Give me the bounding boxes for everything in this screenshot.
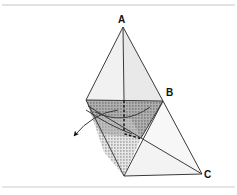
vertex-label-a: A xyxy=(118,15,125,25)
vertex-label-c: C xyxy=(204,170,211,180)
vertex-label-b: B xyxy=(166,88,173,98)
geometry-figure: A B C xyxy=(0,0,237,195)
figure-canvas xyxy=(0,0,237,195)
solid-faces xyxy=(86,27,202,176)
